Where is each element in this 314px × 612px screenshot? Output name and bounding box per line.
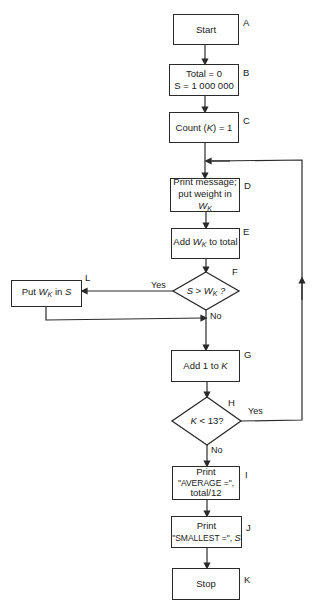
edge-label-h-no: No [211,445,223,455]
decision-h-text: K < 13? [177,415,237,426]
node-label-g: G [244,349,251,360]
increment-k-text: Add 1 to K [183,360,227,372]
add-to-total-text: Add WK to total [173,236,237,251]
put-in-s-process: Put WK in S [11,280,82,307]
add-to-total-process: Add WK to total [171,228,240,259]
decision-f-text: S > WK ? [176,285,236,297]
print-message-text: Print message; [173,176,236,188]
print-smallest-process: Print "SMALLEST =", S [171,516,242,548]
print-smallest-text-1: Print [197,520,217,532]
increment-k-process: Add 1 to K [171,350,240,382]
start-text: Start [196,24,216,36]
edge-label-h-yes: Yes [248,406,263,416]
node-label-i: I [245,469,248,480]
init-total-process: Total = 0 S = 1 000 000 [169,64,239,96]
init-count-process: Count (K) = 1 [169,112,239,143]
node-label-a: A [243,17,249,28]
put-weight-text: put weight in WK [171,188,239,215]
node-label-b: B [243,67,249,78]
print-average-text-1: Print [196,467,216,478]
init-s-text: S = 1 000 000 [174,80,233,92]
edge-label-f-no: No [210,311,222,321]
node-label-k: K [244,574,250,585]
print-message-process: Print message; put weight in WK [170,178,240,212]
node-label-l: L [85,272,90,283]
node-label-h: H [228,397,235,408]
stop-text: Stop [196,578,216,590]
init-count-text: Count (K) = 1 [176,122,233,134]
stop-terminal: Stop [172,568,240,600]
node-label-d: D [244,180,251,191]
print-average-text-3: total/12 [190,488,221,499]
print-average-process: Print "AVERAGE =", total/12 [172,466,240,500]
node-label-e: E [243,226,249,237]
start-terminal: Start [173,14,239,45]
node-label-f: F [232,266,238,277]
print-smallest-text-2: "SMALLEST =", S [172,532,241,544]
node-label-j: J [246,522,251,533]
node-label-c: C [243,115,250,126]
edge-label-f-yes: Yes [151,280,166,290]
put-in-s-text: Put WK in S [22,286,72,301]
init-total-text: Total = 0 [186,68,222,80]
